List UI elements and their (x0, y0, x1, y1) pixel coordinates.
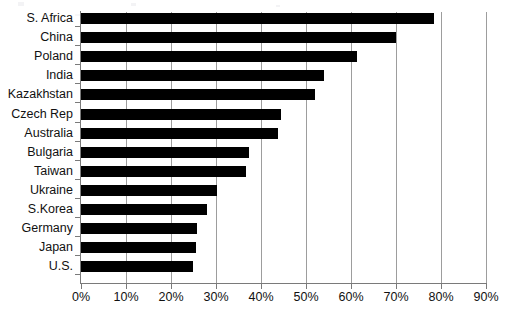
x-axis-tick-label: 30% (194, 290, 238, 304)
bar (81, 147, 249, 158)
scan-artifact (276, 5, 280, 7)
x-axis-tick-label: 70% (374, 290, 418, 304)
x-axis-tick (126, 284, 127, 289)
bar (81, 128, 278, 139)
y-axis-category-label: Czech Rep (0, 108, 73, 121)
scan-artifact (18, 2, 24, 6)
x-axis-tick-label: 80% (419, 290, 463, 304)
x-axis-tick (81, 284, 82, 289)
bar (81, 223, 197, 234)
x-axis-tick (351, 284, 352, 289)
bar (81, 89, 315, 100)
x-axis-tick (441, 284, 442, 289)
y-axis-category-label: Taiwan (0, 165, 73, 178)
x-axis-tick-label: 60% (329, 290, 373, 304)
y-axis-category-label: Germany (0, 222, 73, 235)
bar (81, 166, 246, 177)
gridline (486, 12, 487, 283)
bar (81, 109, 281, 120)
y-axis-tick (75, 26, 80, 27)
y-axis-tick (75, 160, 80, 161)
bar (81, 32, 396, 43)
bar (81, 70, 324, 81)
x-axis-line (80, 283, 487, 284)
y-axis-tick (75, 179, 80, 180)
x-axis-tick-label: 0% (59, 290, 103, 304)
y-axis-category-label: U.S. (0, 260, 73, 273)
bar (81, 51, 357, 62)
y-axis-category-label: S. Africa (0, 12, 73, 25)
gridline (441, 12, 442, 283)
gridline (396, 12, 397, 283)
y-axis-tick (75, 217, 80, 218)
bar (81, 185, 217, 196)
x-axis-tick-label: 90% (464, 290, 508, 304)
y-axis-tick (75, 198, 80, 199)
y-axis-category-label: India (0, 69, 73, 82)
y-axis-category-label: Kazakhstan (0, 88, 73, 101)
y-axis-tick (75, 64, 80, 65)
y-axis-tick (75, 274, 80, 275)
bar-chart: S. AfricaChinaPolandIndiaKazakhstanCzech… (0, 0, 508, 309)
x-axis-tick-label: 50% (284, 290, 328, 304)
y-axis-category-label: S.Korea (0, 203, 73, 216)
x-axis-tick (171, 284, 172, 289)
x-axis-tick-label: 10% (104, 290, 148, 304)
y-axis-tick (75, 45, 80, 46)
y-axis-category-label: Australia (0, 127, 73, 140)
x-axis-tick (396, 284, 397, 289)
y-axis-tick (75, 102, 80, 103)
bar (81, 242, 196, 253)
y-axis-category-label: Ukraine (0, 184, 73, 197)
x-axis-tick (216, 284, 217, 289)
bar (81, 261, 193, 272)
bar (81, 204, 207, 215)
y-axis-tick (75, 122, 80, 123)
y-axis-category-label: Japan (0, 241, 73, 254)
y-axis-tick (75, 83, 80, 84)
bar (81, 13, 434, 24)
x-axis-tick-label: 20% (149, 290, 193, 304)
x-axis-tick (306, 284, 307, 289)
x-axis-tick (261, 284, 262, 289)
x-axis-tick-label: 40% (239, 290, 283, 304)
y-axis-tick (75, 141, 80, 142)
y-axis-category-label: Bulgaria (0, 146, 73, 159)
y-axis-tick (75, 236, 80, 237)
x-axis-tick (486, 284, 487, 289)
y-axis-category-label: Poland (0, 50, 73, 63)
scan-artifact (131, 3, 136, 6)
y-axis-category-label: China (0, 31, 73, 44)
y-axis-tick (75, 255, 80, 256)
